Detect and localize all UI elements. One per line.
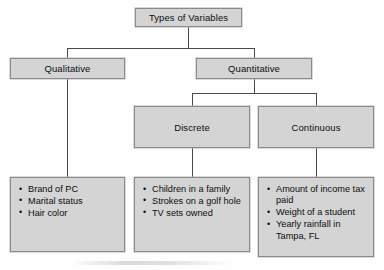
connector-qualitative-examples — [67, 79, 68, 178]
node-label-quantitative: Quantitative — [228, 63, 280, 74]
connector-quantitative-stem — [254, 79, 255, 94]
node-discrete: Discrete — [134, 106, 250, 148]
node-quantitative: Quantitative — [196, 58, 312, 79]
node-continuous: Continuous — [258, 106, 374, 148]
list-item: Marital status — [19, 196, 120, 207]
list-item: Amount of income tax paid — [267, 184, 369, 207]
examples-list-continuous: Amount of income tax paidWeight of a stu… — [267, 184, 369, 242]
list-item: Children in a family — [143, 184, 245, 195]
diagram-canvas: Types of Variables Qualitative Quantitat… — [0, 0, 384, 270]
examples-box-discrete: Children in a familyStrokes on a golf ho… — [134, 177, 250, 252]
node-label-continuous: Continuous — [291, 122, 340, 133]
examples-box-qualitative: Brand of PCMarital statusHair color — [10, 177, 125, 252]
node-label-root: Types of Variables — [149, 12, 228, 23]
connector-level1-bar — [67, 48, 255, 49]
connector-continuous-drop — [316, 93, 317, 107]
list-item: Weight of a student — [267, 207, 369, 218]
connector-discrete-examples — [192, 148, 193, 178]
examples-list-discrete: Children in a familyStrokes on a golf ho… — [143, 184, 245, 219]
list-item: Yearly rainfall in Tampa, FL — [267, 219, 369, 242]
node-label-discrete: Discrete — [174, 122, 210, 133]
list-item: TV sets owned — [143, 208, 245, 219]
connector-continuous-examples — [316, 148, 317, 178]
list-item: Strokes on a golf hole — [143, 196, 245, 207]
examples-list-qualitative: Brand of PCMarital statusHair color — [19, 184, 120, 219]
node-label-qualitative: Qualitative — [45, 63, 91, 74]
connector-level2-bar — [192, 93, 316, 94]
scan-artifact — [70, 261, 230, 265]
node-qualitative: Qualitative — [10, 58, 125, 79]
examples-box-continuous: Amount of income tax paidWeight of a stu… — [258, 177, 374, 257]
connector-discrete-drop — [192, 93, 193, 107]
node-types-of-variables: Types of Variables — [135, 8, 242, 27]
list-item: Brand of PC — [19, 184, 120, 195]
list-item: Hair color — [19, 208, 120, 219]
connector-root-stem — [188, 27, 189, 48]
